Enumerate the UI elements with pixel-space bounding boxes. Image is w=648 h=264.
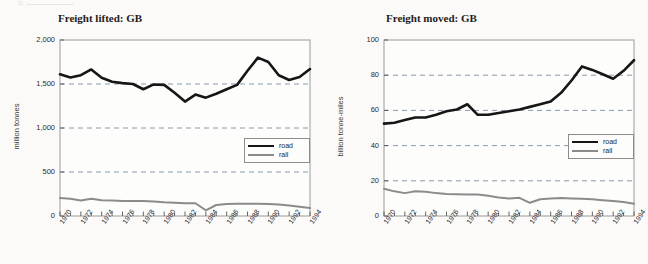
y-tick-label: 0 [15,211,55,220]
y-tick-label: 1,500 [15,79,55,88]
y-tick-label: 100 [339,35,379,44]
y-tick-label: 60 [339,105,379,114]
y-tick-label: 20 [339,176,379,185]
figure-page: ○ ————— Freight lifted: GB million tonne… [0,0,648,264]
legend-item-road: road [572,138,629,146]
legend-line-rail-icon [572,150,598,152]
legend-line-road-icon [248,145,274,147]
y-tick-label: 1,000 [15,123,55,132]
y-tick-label: 2,000 [15,35,55,44]
y-tick-label: 80 [339,70,379,79]
chart-legend[interactable]: road rail [244,138,310,163]
chart-panel-freight-moved: Freight moved: GB billion tonne-miles ro… [324,0,648,264]
legend-label-rail: rail [603,147,612,155]
legend-line-road-icon [572,141,598,143]
legend-item-road: road [248,142,305,150]
legend-line-rail-icon [248,154,274,156]
legend-item-rail: rail [248,151,305,159]
y-tick-label: 500 [15,167,55,176]
plot-background [384,40,634,216]
y-tick-label: 0 [339,211,379,220]
legend-label-road: road [603,138,617,146]
legend-label-road: road [279,142,293,150]
legend-label-rail: rail [279,151,288,159]
y-tick-label: 40 [339,141,379,150]
chart-legend[interactable]: road rail [568,134,634,159]
chart-panel-freight-lifted: Freight lifted: GB million tonnes road r… [0,0,324,264]
legend-item-rail: rail [572,147,629,155]
